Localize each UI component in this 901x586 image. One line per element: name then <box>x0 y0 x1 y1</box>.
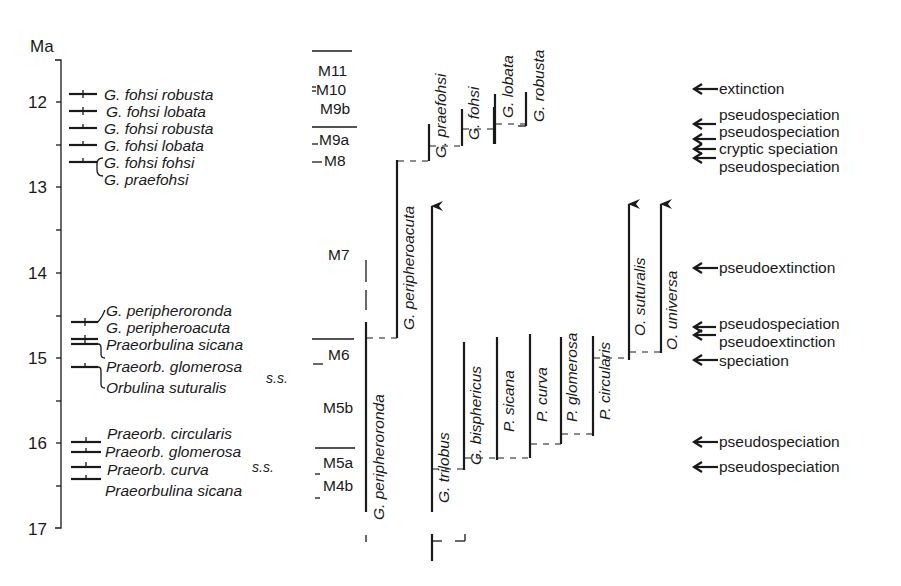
left-event-label: G. fohsi lobata <box>106 103 206 120</box>
axis-tick-label: 15 <box>28 349 47 368</box>
left-event-labels: G. fohsi robusta G. fohsi lobata G. fohs… <box>104 86 288 499</box>
event-label: pseudospeciation <box>719 158 840 175</box>
lineage-label: O. suturalis <box>631 257 648 336</box>
event-label: pseudospeciation <box>719 458 840 475</box>
left-event-label: Praeorbulina sicana <box>105 482 242 499</box>
left-event-label: G. peripheroacuta <box>106 319 230 336</box>
left-event-label: Praeorb. glomerosa <box>106 358 243 375</box>
right-event-arrows <box>694 84 718 472</box>
lineage-label: G. fohsi <box>465 86 482 140</box>
left-event-label: G. praefohsi <box>104 171 189 188</box>
lineage-label: G. bisphericus <box>467 366 484 465</box>
zone-label: M6 <box>328 346 350 363</box>
zone-label: M4b <box>323 477 353 494</box>
left-event-label: Praeorb. curva <box>107 461 209 478</box>
zone-label: M5a <box>323 454 354 471</box>
left-event-label: G. fohsi lobata <box>104 137 204 154</box>
lineage-label: P. sicana <box>500 370 517 432</box>
left-event-label: Praeorb. circularis <box>107 425 232 442</box>
left-arrow-icon <box>694 84 718 94</box>
event-label: pseudospeciation <box>719 315 840 332</box>
lineage-label: G. praefohsi <box>432 73 449 158</box>
left-arrow-icon <box>694 330 716 340</box>
lineage-label: G. peripheroacuta <box>400 206 417 330</box>
zone-label: M8 <box>324 152 346 169</box>
lineage-label: G. robusta <box>530 49 547 122</box>
lineage-label: G. lobata <box>499 55 516 118</box>
ss-label: s.s. <box>266 370 288 386</box>
zone-column: M11 M10 M9b M9a M8 M7 M6 M5b M5a M4b <box>312 51 357 498</box>
right-event-labels: extinction pseudospeciation pseudospecia… <box>719 80 840 475</box>
left-arrow-icon <box>694 322 716 332</box>
event-label: pseudoextinction <box>719 259 835 276</box>
left-arrow-icon <box>694 153 716 163</box>
left-arrow-icon <box>694 134 716 144</box>
left-event-label: G. fohsi fohsi <box>104 154 195 171</box>
event-label: pseudoextinction <box>719 333 835 350</box>
lineage-label: G. peripheroronda <box>370 394 387 520</box>
left-event-markers <box>69 90 105 479</box>
left-event-label: Praeorbulina sicana <box>106 336 243 353</box>
left-arrow-icon <box>694 355 718 365</box>
left-arrow-icon <box>694 144 716 154</box>
time-axis: Ma 12 13 14 15 16 17 <box>28 37 61 539</box>
left-event-label: G. fohsi robusta <box>104 86 214 103</box>
event-label: pseudospeciation <box>719 123 840 140</box>
event-label: extinction <box>719 80 784 97</box>
zone-label: M10 <box>316 81 347 98</box>
zone-label: M11 <box>318 62 347 79</box>
zone-label: M5b <box>323 399 353 416</box>
left-event-label: G. peripheroronda <box>106 302 232 319</box>
lineage-label: G. trilobus <box>435 432 452 503</box>
axis-tick-label: 16 <box>28 434 47 453</box>
lineage-label: O. universa <box>663 270 680 350</box>
left-event-label: Praeorb. glomerosa <box>105 443 242 460</box>
axis-unit-label: Ma <box>30 37 54 56</box>
zone-label: M7 <box>328 246 350 263</box>
event-label: pseudospeciation <box>719 433 840 450</box>
left-arrow-icon <box>694 119 716 129</box>
lineage-label: P. curva <box>533 367 550 422</box>
axis-line <box>55 60 61 528</box>
event-label: speciation <box>719 352 789 369</box>
ss-label: s.s. <box>252 459 274 475</box>
axis-tick-label: 12 <box>28 93 47 112</box>
evolution-diagram: Ma 12 13 14 15 16 17 <box>0 0 901 586</box>
lineage-label: P. glomerosa <box>563 332 580 422</box>
left-event-label: G. fohsi robusta <box>104 120 214 137</box>
zone-label: M9b <box>320 100 350 117</box>
zone-label: M9a <box>319 131 350 148</box>
left-event-label: Orbulina suturalis <box>106 379 227 396</box>
axis-tick-label: 17 <box>28 520 47 539</box>
left-arrow-icon <box>694 437 718 447</box>
event-label: cryptic speciation <box>719 140 838 157</box>
axis-tick-label: 13 <box>28 178 47 197</box>
event-label: pseudospeciation <box>719 106 840 123</box>
lineage-label: P. circularis <box>596 342 613 420</box>
left-arrow-icon <box>694 263 718 273</box>
axis-tick-label: 14 <box>28 264 47 283</box>
left-arrow-icon <box>694 462 718 472</box>
